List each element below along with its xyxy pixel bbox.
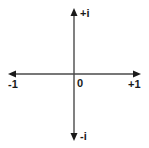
label-positive-imaginary: +i (80, 7, 89, 19)
label-positive-real: +1 (128, 78, 141, 90)
complex-plane-diagram: +i -i -1 0 +1 (0, 0, 149, 148)
label-negative-imaginary: -i (80, 130, 87, 142)
arrow-right-icon (133, 71, 141, 78)
arrow-down-icon (71, 133, 78, 141)
arrow-left-icon (8, 71, 16, 78)
arrow-up-icon (71, 8, 78, 16)
label-negative-real: -1 (8, 78, 18, 90)
label-origin: 0 (77, 77, 83, 89)
